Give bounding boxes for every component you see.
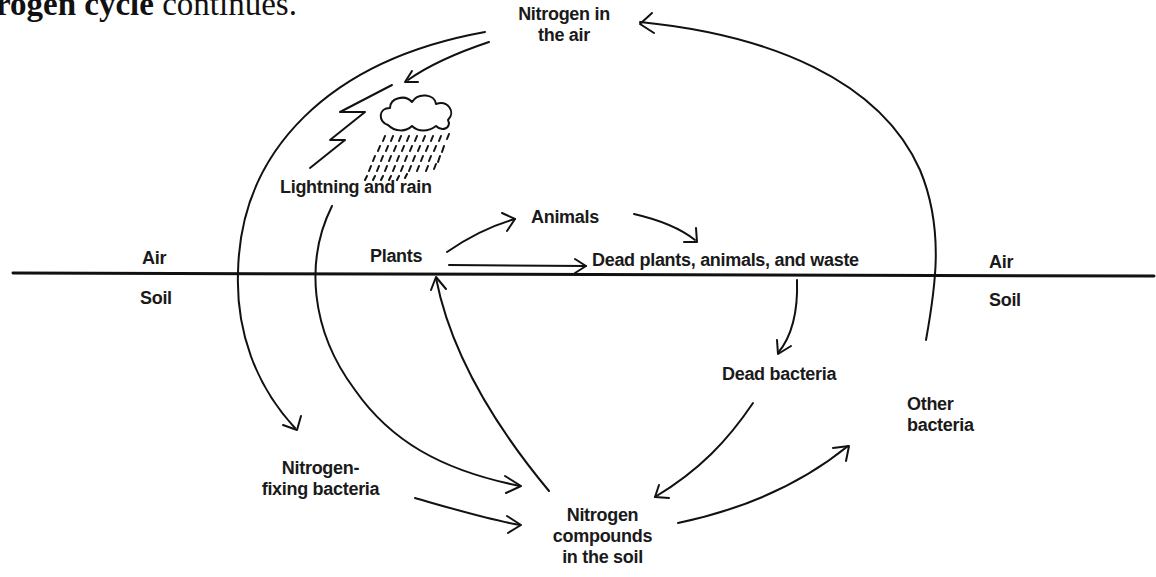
label-fixing-bacteria: Nitrogen- fixing bacteria — [248, 458, 393, 500]
label-other-bacteria: Other bacteria — [907, 394, 974, 436]
arrow-animals-to-dead — [634, 214, 695, 240]
arrow-plants-to-dead — [449, 265, 586, 266]
label-air-left: Air — [142, 248, 166, 269]
label-dead-bacteria: Dead bacteria — [722, 364, 836, 385]
label-line: Nitrogen- — [248, 458, 393, 479]
arrow-dead-to-dead-bacteria — [778, 280, 797, 353]
arrow-fixing-to-compounds — [415, 498, 520, 525]
air-soil-divider — [13, 273, 1154, 276]
cloud-icon — [381, 95, 451, 130]
label-line: compounds — [540, 526, 665, 547]
lightning-icon — [310, 85, 392, 168]
rain-icon — [365, 134, 449, 180]
arrow-plants-to-animals — [447, 219, 515, 252]
label-lightning-rain: Lightning and rain — [280, 177, 432, 198]
label-line: bacteria — [907, 415, 974, 436]
label-animals: Animals — [531, 207, 599, 228]
label-line: the air — [510, 25, 618, 46]
label-dead-matter: Dead plants, animals, and waste — [592, 250, 859, 271]
label-nitrogen-in-air: Nitrogen in the air — [510, 4, 618, 46]
label-soil-left: Soil — [140, 288, 172, 309]
arrow-compounds-to-other-bacteria — [678, 446, 848, 523]
diagram-arrows — [0, 0, 1156, 577]
label-soil-right: Soil — [989, 290, 1021, 311]
label-nitrogen-compounds: Nitrogen compounds in the soil — [540, 505, 665, 568]
label-line: in the soil — [540, 547, 665, 568]
label-plants: Plants — [370, 246, 422, 267]
label-line: fixing bacteria — [248, 479, 393, 500]
arc-air-to-fixing-bacteria — [238, 32, 485, 428]
nitrogen-cycle-diagram: rogen cycle continues. — [0, 0, 1156, 577]
label-line: Nitrogen in — [510, 4, 618, 25]
arc-other-bacteria-to-air — [640, 22, 936, 340]
arrow-compounds-to-plants — [436, 278, 549, 491]
label-line: Other — [907, 394, 974, 415]
label-line: Nitrogen — [540, 505, 665, 526]
arrow-dead-bacteria-to-compounds — [655, 403, 753, 497]
label-air-right: Air — [989, 252, 1013, 273]
